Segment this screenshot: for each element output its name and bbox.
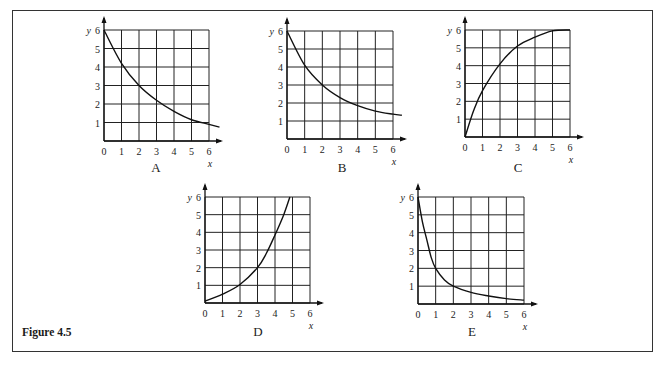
x-axis-label: x	[568, 154, 574, 165]
x-tick-label: 0	[463, 142, 468, 153]
x-tick-label: 3	[338, 144, 343, 155]
y-tick-label: 6	[278, 26, 283, 37]
x-tick-label: 3	[255, 308, 260, 319]
x-tick-label: 2	[320, 144, 325, 155]
grid	[287, 31, 393, 139]
x-tick-label: 1	[433, 309, 438, 320]
x-tick-label: 1	[480, 142, 485, 153]
y-tick-label: 6	[456, 25, 461, 36]
x-tick-label: 3	[154, 146, 159, 157]
y-tick-label: 4	[196, 227, 201, 238]
x-axis-arrow-icon	[400, 137, 407, 142]
y-tick-label: 1	[409, 281, 414, 292]
y-tick-label: 4	[456, 61, 461, 72]
y-tick-label: 5	[409, 210, 414, 221]
x-axis-arrow-icon	[216, 139, 223, 144]
panel-label: B	[338, 160, 347, 175]
x-tick-label: 1	[119, 146, 124, 157]
x-tick-label: 0	[285, 144, 290, 155]
graph-c: 0123456123456yxC	[447, 16, 584, 175]
y-tick-label: 4	[95, 62, 100, 73]
panel-label: D	[253, 324, 262, 339]
x-tick-label: 6	[207, 146, 212, 157]
x-tick-label: 5	[550, 142, 555, 153]
x-tick-label: 5	[373, 144, 378, 155]
x-tick-label: 0	[203, 308, 208, 319]
y-tick-label: 3	[278, 80, 283, 91]
graph-a: 0123456123456yxA	[86, 16, 223, 175]
panel-label: C	[514, 160, 523, 175]
y-axis-label: y	[400, 192, 406, 203]
y-tick-label: 1	[456, 114, 461, 125]
y-axis-arrow-icon	[285, 17, 290, 24]
x-tick-label: 4	[355, 144, 360, 155]
y-tick-label: 2	[95, 99, 100, 110]
x-tick-label: 6	[568, 142, 573, 153]
y-tick-label: 3	[95, 81, 100, 92]
x-tick-label: 1	[302, 144, 307, 155]
x-tick-label: 1	[220, 308, 225, 319]
y-tick-label: 6	[409, 192, 414, 203]
x-tick-label: 4	[172, 146, 177, 157]
y-axis-label: y	[447, 25, 453, 36]
grid	[205, 197, 310, 303]
x-tick-label: 0	[416, 309, 421, 320]
x-tick-label: 6	[391, 144, 396, 155]
y-axis-label: y	[86, 25, 92, 36]
x-tick-label: 2	[498, 142, 503, 153]
y-axis-label: y	[187, 192, 193, 203]
y-tick-label: 3	[196, 245, 201, 256]
y-tick-label: 3	[409, 246, 414, 257]
y-tick-label: 2	[456, 96, 461, 107]
y-tick-label: 1	[278, 116, 283, 127]
x-tick-label: 2	[137, 146, 142, 157]
x-axis-arrow-icon	[531, 302, 538, 307]
figure-caption: Figure 4.5	[22, 326, 72, 338]
figure-plots: 0123456123456yxA0123456123456yxB01234561…	[0, 0, 663, 367]
graph-d: 0123456123456yxD	[187, 183, 324, 339]
x-tick-label: 5	[290, 308, 295, 319]
y-tick-label: 1	[196, 280, 201, 291]
x-axis-arrow-icon	[317, 301, 324, 306]
y-tick-label: 6	[196, 192, 201, 203]
x-tick-label: 5	[189, 146, 194, 157]
x-axis-label: x	[522, 321, 528, 332]
y-tick-label: 5	[278, 44, 283, 55]
x-tick-label: 6	[522, 309, 527, 320]
y-tick-label: 6	[95, 25, 100, 36]
x-tick-label: 5	[504, 309, 509, 320]
x-axis-label: x	[207, 158, 213, 169]
y-axis-arrow-icon	[416, 183, 421, 190]
y-tick-label: 3	[456, 79, 461, 90]
panel-label: E	[468, 324, 476, 339]
x-tick-label: 4	[533, 142, 538, 153]
y-tick-label: 5	[196, 210, 201, 221]
y-tick-label: 1	[95, 118, 100, 129]
x-axis-label: x	[308, 320, 314, 331]
x-axis-arrow-icon	[577, 135, 584, 140]
x-tick-label: 2	[238, 308, 243, 319]
x-tick-label: 3	[469, 309, 474, 320]
x-tick-label: 3	[515, 142, 520, 153]
y-tick-label: 2	[278, 98, 283, 109]
graph-b: 0123456123456yxB	[269, 17, 407, 175]
y-axis-arrow-icon	[102, 16, 107, 23]
x-tick-label: 0	[102, 146, 107, 157]
grid	[104, 30, 209, 141]
x-tick-label: 6	[308, 308, 313, 319]
y-tick-label: 5	[456, 43, 461, 54]
grid	[418, 197, 524, 304]
y-tick-label: 5	[95, 44, 100, 55]
y-tick-label: 2	[409, 263, 414, 274]
x-tick-label: 4	[273, 308, 278, 319]
y-axis-arrow-icon	[463, 16, 468, 23]
x-tick-label: 4	[486, 309, 491, 320]
y-axis-label: y	[269, 26, 275, 37]
y-tick-label: 4	[409, 228, 414, 239]
graph-e: 0123456123456yxE	[400, 183, 538, 339]
x-tick-label: 2	[451, 309, 456, 320]
panel-label: A	[151, 160, 161, 175]
y-tick-label: 2	[196, 263, 201, 274]
x-axis-label: x	[391, 156, 397, 167]
y-tick-label: 4	[278, 62, 283, 73]
